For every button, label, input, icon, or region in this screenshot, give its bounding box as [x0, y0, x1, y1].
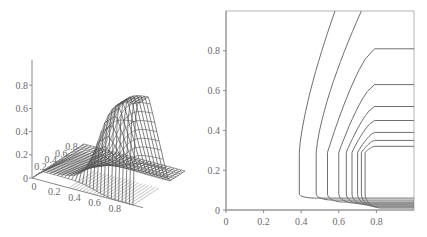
contour-line: [346, 107, 414, 205]
contour-line: [358, 132, 414, 206]
contour-axes: [226, 11, 414, 210]
x-tick-label: 0.6: [333, 216, 346, 227]
y-tick-label: 0.6: [208, 85, 221, 96]
y-tick-label: 0.4: [208, 125, 221, 136]
x-tick-label: 0.6: [88, 197, 101, 208]
contour-lines: [299, 11, 414, 208]
x-tick-label: 0.2: [257, 216, 270, 227]
x-tick-label: 0.8: [370, 216, 383, 227]
x-tick-label: 0.4: [295, 216, 308, 227]
contour-plot-frame: [226, 11, 414, 210]
x-tick-label: 0: [224, 216, 229, 227]
x-tick-label: 0.8: [109, 203, 122, 214]
surface-mesh-line: [129, 96, 181, 204]
figure: 00.20.40.60.800.20.40.60.80.20.40.60.8 0…: [0, 0, 427, 237]
contour-plot: 00.20.40.60.800.20.40.60.8: [208, 11, 415, 227]
x-tick-label: 0: [32, 181, 37, 192]
z-tick-label: 0.4: [16, 126, 29, 137]
contour-line: [365, 146, 414, 208]
x-tick-label: 0.4: [68, 192, 81, 203]
contour-line: [361, 140, 414, 207]
surface-plot-3d: 00.20.40.60.800.20.40.60.80.20.40.60.8: [16, 60, 186, 214]
x-tick-label: 0.2: [48, 186, 61, 197]
z-tick-label: 0.6: [16, 103, 29, 114]
contour-line: [328, 49, 415, 202]
y-tick-label: 0.8: [65, 141, 78, 152]
y-tick-label: 0.2: [208, 165, 221, 176]
y-tick-label: 0.8: [208, 45, 221, 56]
z-tick-label: 0: [23, 173, 28, 184]
y-tick-label: 0: [215, 205, 220, 216]
z-tick-label: 0.2: [16, 149, 29, 160]
z-tick-label: 0.8: [16, 80, 29, 91]
